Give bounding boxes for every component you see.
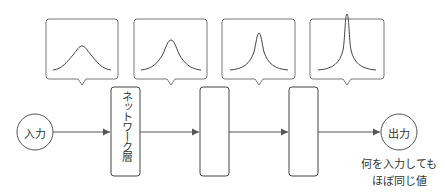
- callout-1: [46, 19, 118, 85]
- callout-2: [134, 19, 207, 85]
- caption-line-2: ほぼ同じ値: [354, 172, 444, 188]
- callout-3: [222, 19, 295, 85]
- input-label: 入力: [17, 125, 53, 141]
- callout-4: [310, 14, 384, 85]
- layer-1-label: ネットワーク層: [118, 91, 134, 175]
- network-layer-3: [289, 87, 318, 176]
- caption-line-1: 何を入力しても: [354, 155, 444, 171]
- output-label: 出力: [381, 125, 417, 141]
- network-layer-2: [200, 87, 229, 176]
